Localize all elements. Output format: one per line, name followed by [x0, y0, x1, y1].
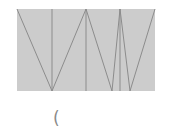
zigzag-diagram — [0, 0, 178, 133]
caption-paren: ( — [53, 108, 60, 128]
